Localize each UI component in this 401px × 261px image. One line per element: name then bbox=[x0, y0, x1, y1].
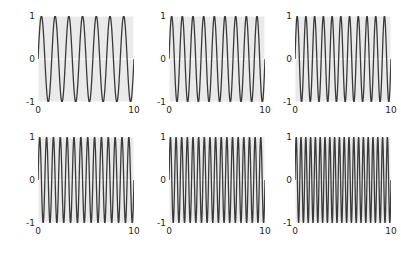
x-tick-label: 10 bbox=[385, 227, 396, 236]
x-tick-label: 0 bbox=[166, 227, 172, 236]
y-tick-label: -1 bbox=[26, 98, 35, 107]
y-tick-label: 1 bbox=[29, 133, 35, 142]
subplot-6: -101010 bbox=[295, 137, 391, 223]
x-tick-label: 10 bbox=[259, 106, 270, 115]
x-tick-label: 0 bbox=[166, 106, 172, 115]
figure-canvas: -101010-101010-101010-101010-101010-1010… bbox=[0, 0, 401, 261]
y-tick-label: -1 bbox=[283, 98, 292, 107]
x-tick-label: 10 bbox=[128, 106, 139, 115]
plot-area-2 bbox=[169, 16, 265, 102]
y-tick-label: 1 bbox=[160, 133, 166, 142]
x-tick-label: 0 bbox=[35, 106, 41, 115]
subplot-5: -101010 bbox=[169, 137, 265, 223]
y-tick-label: 1 bbox=[286, 12, 292, 21]
sine-curve bbox=[169, 137, 265, 223]
x-tick-label: 0 bbox=[292, 106, 298, 115]
y-tick-label: -1 bbox=[283, 219, 292, 228]
y-tick-label: 1 bbox=[29, 12, 35, 21]
subplot-2: -101010 bbox=[169, 16, 265, 102]
y-tick-label: -1 bbox=[26, 219, 35, 228]
plot-area-6 bbox=[295, 137, 391, 223]
x-tick-label: 10 bbox=[259, 227, 270, 236]
plot-area-3 bbox=[295, 16, 391, 102]
subplot-1: -101010 bbox=[38, 16, 134, 102]
y-tick-label: -1 bbox=[157, 98, 166, 107]
x-tick-label: 0 bbox=[292, 227, 298, 236]
x-tick-label: 10 bbox=[385, 106, 396, 115]
sine-curve bbox=[295, 137, 391, 223]
x-tick-label: 10 bbox=[128, 227, 139, 236]
y-tick-label: 0 bbox=[286, 176, 292, 185]
plot-area-4 bbox=[38, 137, 134, 223]
plot-area-1 bbox=[38, 16, 134, 102]
y-tick-label: 0 bbox=[29, 176, 35, 185]
x-tick-label: 0 bbox=[35, 227, 41, 236]
y-tick-label: -1 bbox=[157, 219, 166, 228]
y-tick-label: 0 bbox=[286, 55, 292, 64]
y-tick-label: 0 bbox=[160, 176, 166, 185]
y-tick-label: 0 bbox=[29, 55, 35, 64]
y-tick-label: 1 bbox=[286, 133, 292, 142]
y-tick-label: 0 bbox=[160, 55, 166, 64]
plot-area-5 bbox=[169, 137, 265, 223]
subplot-4: -101010 bbox=[38, 137, 134, 223]
subplot-3: -101010 bbox=[295, 16, 391, 102]
y-tick-label: 1 bbox=[160, 12, 166, 21]
